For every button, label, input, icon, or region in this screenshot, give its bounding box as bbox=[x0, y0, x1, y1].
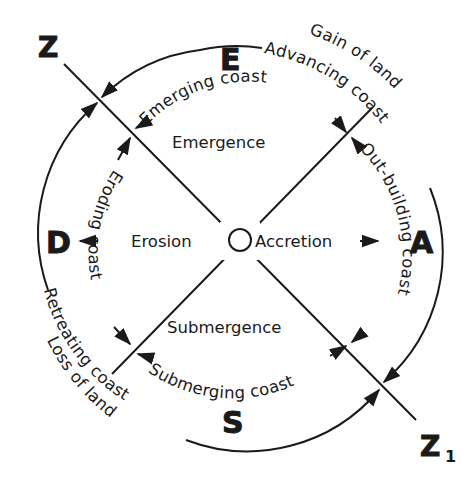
label-out-building-coast: Out-building coast bbox=[356, 139, 417, 298]
label-eroding-coast: Eroding coast bbox=[84, 167, 126, 281]
label-d: D bbox=[46, 225, 71, 260]
label-submerging-coast: Submerging coast bbox=[145, 359, 296, 402]
center-circle bbox=[229, 229, 251, 251]
label-erosion: Erosion bbox=[131, 232, 192, 251]
label-z1-subscript: 1 bbox=[445, 447, 456, 466]
label-emerging-coast: Emerging coast bbox=[135, 67, 268, 129]
label-emergence: Emergence bbox=[172, 133, 265, 152]
label-z1: Z bbox=[420, 430, 440, 463]
label-submergence: Submergence bbox=[167, 318, 281, 337]
coastal-classification-diagram: E S D A Z Z 1 Erosion Accretion Emergenc… bbox=[0, 0, 472, 478]
label-accretion: Accretion bbox=[255, 232, 332, 251]
label-s: S bbox=[222, 405, 244, 440]
label-z: Z bbox=[38, 31, 58, 64]
